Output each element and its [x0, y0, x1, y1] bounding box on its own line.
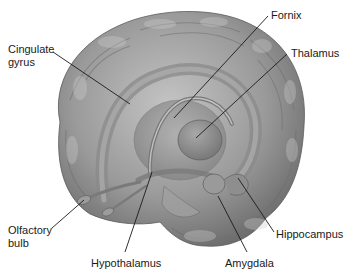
label-hippocampus: Hippocampus — [276, 228, 343, 241]
label-line: Amygdala — [225, 257, 274, 270]
label-line: Cingulate — [8, 43, 54, 56]
label-line: Fornix — [271, 9, 302, 22]
label-hypothalamus: Hypothalamus — [91, 257, 161, 270]
label-olfactory-bulb: Olfactory bulb — [8, 224, 52, 250]
label-amygdala: Amygdala — [225, 257, 274, 270]
label-line: gyrus — [8, 56, 54, 69]
label-line: Hippocampus — [276, 228, 343, 241]
label-line: bulb — [8, 237, 52, 250]
label-fornix: Fornix — [271, 9, 302, 22]
label-line: Thalamus — [291, 47, 339, 60]
label-line: Hypothalamus — [91, 257, 161, 270]
label-cingulate-gyrus: Cingulate gyrus — [8, 43, 54, 69]
label-line: Olfactory — [8, 224, 52, 237]
label-thalamus: Thalamus — [291, 47, 339, 60]
leader-olfactory — [52, 200, 84, 228]
